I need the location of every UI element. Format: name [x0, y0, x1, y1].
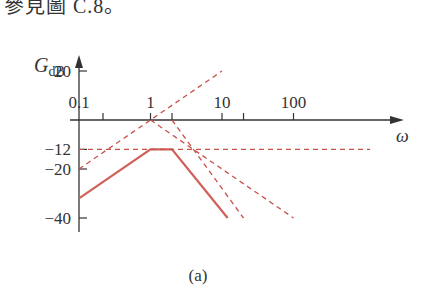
- x-tick-label: 10: [214, 93, 231, 112]
- x-axis-arrow-icon: [390, 116, 404, 124]
- magnitude-curve: [79, 149, 228, 218]
- y-tick-label: −20: [44, 160, 71, 179]
- y-tick-label: 20: [54, 62, 71, 81]
- x-axis-label: ω: [396, 126, 409, 146]
- y-axis-arrow-icon: [75, 55, 83, 68]
- x-tick-label: 1: [146, 93, 155, 112]
- x-tick-label: 100: [281, 93, 307, 112]
- figure-caption: (a): [189, 266, 208, 285]
- x-tick-label: 0.1: [68, 93, 89, 112]
- y-tick-label: −12: [44, 140, 71, 159]
- asymptote-line: [151, 120, 294, 218]
- bode-magnitude-chart: GdBω20−12−20−400.1110100(a): [0, 0, 424, 296]
- y-tick-label: −40: [44, 209, 71, 228]
- asymptote-line: [172, 120, 244, 218]
